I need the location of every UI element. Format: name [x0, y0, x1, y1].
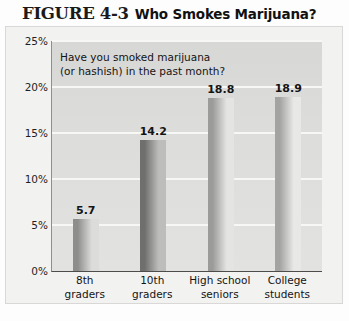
- bar-value-label: 18.9: [275, 82, 302, 95]
- bar: 5.7: [73, 219, 99, 271]
- bar-value-label: 5.7: [76, 204, 96, 217]
- y-axis-tick-label: 10%: [4, 173, 48, 185]
- annotation-line-1: Have you smoked marijuana: [60, 50, 225, 64]
- bar-value-label: 18.8: [207, 83, 234, 96]
- bar-fill: [140, 140, 166, 271]
- x-axis-label-line: College: [254, 274, 322, 288]
- chart-annotation: Have you smoked marijuana (or hashish) i…: [60, 50, 225, 78]
- bar-fill: [275, 97, 301, 271]
- figure-container: FIGURE 4-3Who Smokes Marijuana? 0%5%10%1…: [0, 0, 349, 321]
- bar-fill: [208, 98, 234, 271]
- x-axis-label-line: seniors: [186, 288, 254, 302]
- x-axis-category-label: 10thgraders: [119, 274, 187, 301]
- bar-fill: [73, 219, 99, 271]
- x-axis-label-line: 8th: [51, 274, 119, 288]
- chart: 0%5%10%15%20%25% 5.714.218.818.9 Have yo…: [0, 0, 349, 321]
- y-axis-tick-label: 5%: [4, 219, 48, 231]
- bar-value-label: 14.2: [140, 125, 167, 138]
- annotation-line-2: (or hashish) in the past month?: [60, 64, 225, 78]
- y-axis-tick-label: 15%: [4, 127, 48, 139]
- y-axis-tick-label: 20%: [4, 81, 48, 93]
- x-axis-label-line: graders: [51, 288, 119, 302]
- bar: 18.9: [275, 97, 301, 271]
- x-axis: 8thgraders10thgradersHigh schoolseniorsC…: [51, 274, 322, 308]
- x-axis-category-label: High schoolseniors: [186, 274, 254, 301]
- gridline: [52, 40, 322, 42]
- x-axis-label-line: students: [254, 288, 322, 302]
- bar: 18.8: [208, 98, 234, 271]
- x-axis-label-line: graders: [119, 288, 187, 302]
- x-axis-label-line: 10th: [119, 274, 187, 288]
- y-axis: 0%5%10%15%20%25%: [0, 0, 48, 321]
- x-axis-category-label: Collegestudents: [254, 274, 322, 301]
- x-axis-category-label: 8thgraders: [51, 274, 119, 301]
- bar: 14.2: [140, 140, 166, 271]
- x-axis-label-line: High school: [186, 274, 254, 288]
- y-axis-tick-label: 25%: [4, 35, 48, 47]
- y-axis-tick-label: 0%: [4, 265, 48, 277]
